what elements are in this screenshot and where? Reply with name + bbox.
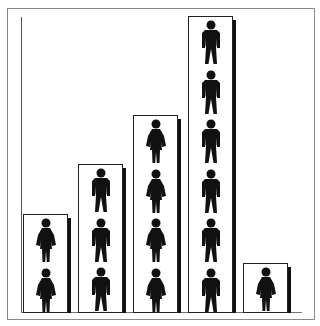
male-figure-icon	[198, 218, 224, 264]
male-figure-icon	[198, 70, 224, 116]
y-axis	[21, 17, 22, 313]
female-figure-icon	[253, 267, 279, 313]
female-figure-icon	[33, 268, 59, 314]
male-figure-icon	[198, 268, 224, 314]
male-figure-icon	[198, 119, 224, 165]
male-figure-icon	[198, 70, 224, 116]
male-figure-icon	[88, 218, 114, 264]
bar-2	[78, 164, 123, 313]
female-figure-icon	[33, 218, 59, 264]
male-figure-icon	[198, 20, 224, 66]
male-figure-icon	[88, 218, 114, 264]
female-figure-icon	[143, 218, 169, 264]
bar-3	[133, 115, 178, 313]
female-figure-icon	[253, 267, 279, 313]
female-figure-icon	[143, 119, 169, 165]
bar-1	[23, 214, 68, 313]
male-figure-icon	[198, 268, 224, 314]
male-figure-icon	[88, 168, 114, 214]
female-figure-icon	[143, 169, 169, 215]
male-figure-icon	[198, 169, 224, 215]
female-figure-icon	[143, 268, 169, 314]
male-figure-icon	[88, 267, 114, 313]
male-figure-icon	[198, 169, 224, 215]
male-figure-icon	[198, 119, 224, 165]
female-figure-icon	[33, 268, 59, 314]
bar-4	[188, 16, 233, 313]
bar-5	[243, 263, 288, 313]
male-figure-icon	[88, 267, 114, 313]
female-figure-icon	[143, 169, 169, 215]
female-figure-icon	[143, 218, 169, 264]
female-figure-icon	[33, 218, 59, 264]
male-figure-icon	[198, 218, 224, 264]
female-figure-icon	[143, 119, 169, 165]
male-figure-icon	[88, 168, 114, 214]
female-figure-icon	[143, 268, 169, 314]
male-figure-icon	[198, 20, 224, 66]
